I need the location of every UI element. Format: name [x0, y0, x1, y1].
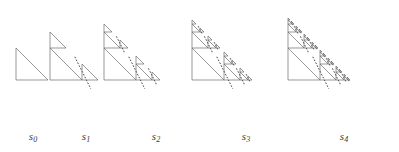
- triangle-hypotenuse: [120, 40, 128, 48]
- dashed-parallel-line: [217, 57, 233, 89]
- stage-label-s0: s0: [29, 130, 38, 144]
- triangle-hypotenuse: [304, 40, 312, 48]
- stage-label-subscript: 0: [33, 135, 37, 144]
- triangle-hypotenuse: [320, 64, 336, 80]
- stage-label-subscript: 4: [344, 135, 348, 144]
- stage-label-s1: s1: [82, 130, 91, 144]
- triangle-hypotenuse: [208, 36, 212, 40]
- dashed-parallel-line: [148, 68, 156, 84]
- dashed-parallel-line: [75, 57, 91, 89]
- triangle-hypotenuse: [320, 56, 328, 64]
- triangle-hypotenuse: [104, 32, 120, 48]
- triangle-hypotenuse: [152, 72, 160, 80]
- figure-container: s0 s1 s2 s3 s4: [0, 0, 399, 152]
- dashed-parallel-line: [313, 57, 329, 89]
- triangle-hypotenuse: [104, 48, 136, 80]
- stage-group-s2: [104, 24, 160, 89]
- triangle-hypotenuse: [82, 64, 98, 80]
- dashed-parallel-line: [129, 57, 145, 89]
- triangle-hypotenuse: [288, 24, 296, 32]
- triangle-hypotenuse: [208, 40, 216, 48]
- stage-group-s0: [16, 48, 48, 80]
- triangle-hypotenuse: [288, 48, 320, 80]
- triangle-hypotenuse: [104, 24, 112, 32]
- stage-group-s4: [288, 18, 350, 89]
- triangle-hypotenuse: [240, 72, 248, 80]
- triangle-hypotenuse: [240, 68, 244, 72]
- triangle-hypotenuse: [192, 48, 224, 80]
- triangle-hypotenuse: [50, 32, 66, 48]
- triangle-hypotenuse: [50, 48, 82, 80]
- triangle-hypotenuse: [224, 52, 228, 56]
- triangle-hypotenuse: [224, 56, 232, 64]
- stage-label-s4: s4: [340, 130, 349, 144]
- triangle-hypotenuse: [136, 64, 152, 80]
- triangle-hypotenuse: [192, 32, 208, 48]
- triangle-hypotenuse: [288, 32, 304, 48]
- triangle-hypotenuse: [336, 72, 344, 80]
- stage-label-subscript: 2: [156, 135, 160, 144]
- triangle-hypotenuse: [224, 64, 240, 80]
- stage-group-s1: [50, 32, 98, 89]
- stage-label-subscript: 3: [246, 135, 250, 144]
- stage-label-s3: s3: [242, 130, 251, 144]
- triangle-hypotenuse: [16, 48, 48, 80]
- dashed-parallel-line: [116, 36, 124, 52]
- triangle-hypotenuse: [136, 56, 144, 64]
- triangle-hypotenuse: [192, 24, 200, 32]
- stage-label-s2: s2: [152, 130, 161, 144]
- stage-label-subscript: 1: [86, 135, 90, 144]
- triangle-hypotenuse: [192, 20, 196, 24]
- stage-group-s3: [192, 20, 252, 89]
